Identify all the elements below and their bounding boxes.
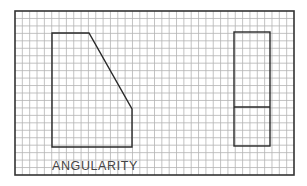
figure-label: ANGULARITY (52, 160, 138, 173)
grid-lines (15, 11, 294, 175)
grid-drawing (0, 0, 307, 186)
